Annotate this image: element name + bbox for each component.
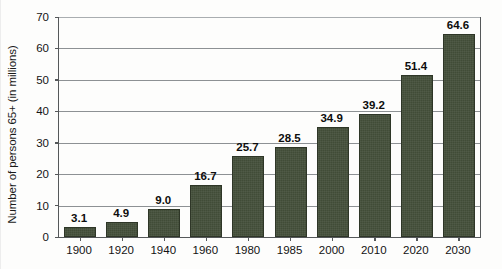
x-axis-tick-mark: [332, 237, 333, 241]
x-axis-tick-mark: [248, 237, 249, 241]
x-axis-tick-mark: [206, 237, 207, 241]
y-axis-tick-mark: [55, 79, 59, 80]
x-axis-tick-mark: [80, 237, 81, 241]
y-axis-tick-label: 60: [1, 42, 49, 54]
y-axis-tick-mark: [55, 237, 59, 238]
y-axis-tick-label: 20: [1, 168, 49, 180]
bar: [275, 147, 307, 237]
x-axis-tick-label: 2000: [319, 244, 345, 256]
x-axis-tick-label: 1940: [150, 244, 176, 256]
x-axis-tick-mark: [458, 237, 459, 241]
y-axis-title: Number of persons 65+ (in millions): [1, 0, 23, 269]
bar-value-label: 28.5: [278, 132, 300, 144]
y-axis-tick-mark: [55, 174, 59, 175]
x-axis-tick-label: 1985: [277, 244, 303, 256]
bar: [401, 75, 433, 237]
x-axis-tick-label: 2020: [403, 244, 429, 256]
x-axis-tick-mark: [122, 237, 123, 241]
bar-value-label: 34.9: [320, 112, 342, 124]
y-axis-tick-label: 50: [1, 74, 49, 86]
bar: [317, 127, 349, 237]
x-axis-tick-mark: [416, 237, 417, 241]
y-axis-tick-mark: [55, 17, 59, 18]
bar: [148, 209, 180, 237]
y-axis-tick-label: 30: [1, 137, 49, 149]
bar-value-label: 4.9: [113, 207, 129, 219]
y-axis-tick-label: 0: [1, 231, 49, 243]
bar: [106, 222, 138, 237]
y-axis-tick-mark: [55, 48, 59, 49]
y-axis-tick-label: 70: [1, 11, 49, 23]
bar-value-label: 9.0: [155, 194, 171, 206]
y-axis-tick-mark: [55, 205, 59, 206]
bar: [190, 185, 222, 237]
x-axis-tick-label: 1920: [108, 244, 134, 256]
bar-value-label: 64.6: [447, 19, 469, 31]
x-axis-tick-mark: [290, 237, 291, 241]
y-axis-tick-label: 40: [1, 105, 49, 117]
x-axis-tick-mark: [164, 237, 165, 241]
bar-value-label: 51.4: [405, 60, 427, 72]
x-axis-tick-mark: [374, 237, 375, 241]
gridline: [59, 17, 480, 18]
bar: [443, 34, 475, 237]
bar-value-label: 25.7: [236, 141, 258, 153]
bar: [359, 114, 391, 237]
bar: [232, 156, 264, 237]
y-axis-tick-mark: [55, 111, 59, 112]
y-axis-tick-mark: [55, 142, 59, 143]
bar-value-label: 39.2: [363, 99, 385, 111]
bar-chart-figure: Number of persons 65+ (in millions) 0102…: [0, 0, 502, 269]
x-axis-tick-label: 1960: [193, 244, 219, 256]
gridline: [59, 48, 480, 49]
x-axis-tick-label: 2010: [361, 244, 387, 256]
bar-value-label: 3.1: [71, 212, 87, 224]
bar-value-label: 16.7: [194, 170, 216, 182]
x-axis-tick-label: 1980: [235, 244, 261, 256]
bar: [64, 227, 96, 237]
x-axis-tick-label: 1900: [66, 244, 92, 256]
y-axis-tick-label: 10: [1, 200, 49, 212]
x-axis-tick-label: 2030: [445, 244, 471, 256]
plot-area: [58, 17, 481, 238]
